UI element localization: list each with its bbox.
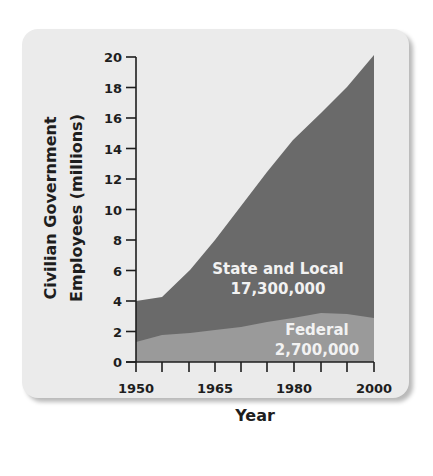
y-ticks	[126, 57, 136, 362]
x-axis-title: Year	[234, 406, 275, 425]
x-tick-label: 1950	[118, 381, 154, 396]
x-tick-label: 1980	[276, 381, 312, 396]
y-tick-label: 12	[104, 172, 122, 187]
y-tick-label: 6	[113, 264, 122, 279]
y-tick-label: 10	[104, 203, 122, 218]
x-tick-label: 1965	[197, 381, 233, 396]
x-ticks	[136, 362, 374, 372]
y-axis-title-line1: Civilian Government	[41, 116, 60, 299]
y-tick-label: 8	[113, 233, 122, 248]
y-axis-title-line2: Employees (millions)	[67, 114, 86, 302]
y-tick-label: 20	[104, 50, 122, 65]
x-tick-label: 2000	[356, 381, 392, 396]
y-tick-label: 0	[113, 355, 122, 370]
y-tick-label: 14	[104, 142, 122, 157]
state-local-value: 17,300,000	[231, 280, 326, 298]
y-tick-label: 16	[104, 111, 122, 126]
federal-value: 2,700,000	[275, 341, 359, 359]
state-local-label: State and Local	[212, 260, 343, 278]
federal-label: Federal	[285, 321, 348, 339]
y-tick-label: 4	[113, 294, 122, 309]
y-tick-label: 2	[113, 325, 122, 340]
chart-svg: 0 2 4 6 8 10 12 14 16 18 20 1950 1965 19…	[0, 0, 433, 476]
y-tick-label: 18	[104, 81, 122, 96]
